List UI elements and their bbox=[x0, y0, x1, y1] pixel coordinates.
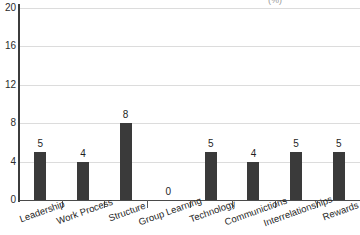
y-axis-tick-label: 4 bbox=[0, 157, 16, 167]
bar bbox=[247, 162, 259, 200]
bar-value-label: 5 bbox=[319, 139, 358, 149]
bar-value-label: 0 bbox=[149, 187, 188, 197]
chart-title-text: (%) bbox=[268, 0, 282, 5]
bar-group bbox=[106, 8, 145, 200]
y-axis-tick-label: 20 bbox=[0, 3, 16, 13]
bar-value-label: 4 bbox=[63, 149, 102, 159]
bar-value-label: 5 bbox=[277, 139, 316, 149]
y-axis-tick-label: 8 bbox=[0, 118, 16, 128]
y-axis-tick-label: 0 bbox=[0, 195, 16, 205]
bar-group bbox=[149, 8, 188, 200]
y-axis-tick-label: 12 bbox=[0, 80, 16, 90]
bar-group bbox=[21, 8, 60, 200]
x-axis-tick bbox=[147, 200, 148, 208]
bar bbox=[290, 152, 302, 200]
bar-value-label: 5 bbox=[191, 139, 230, 149]
bar-value-label: 4 bbox=[234, 149, 273, 159]
bar-group bbox=[191, 8, 230, 200]
y-axis-line bbox=[18, 4, 20, 202]
bar bbox=[120, 123, 132, 200]
bar-value-label: 5 bbox=[21, 139, 60, 149]
y-axis-tick-label: 16 bbox=[0, 41, 16, 51]
bar-value-label: 8 bbox=[106, 110, 145, 120]
bar bbox=[34, 152, 46, 200]
bar-group bbox=[63, 8, 102, 200]
chart-title-cropped: (%) bbox=[0, 0, 360, 5]
bar bbox=[205, 152, 217, 200]
bar-group bbox=[234, 8, 273, 200]
bar-group bbox=[277, 8, 316, 200]
bar bbox=[77, 162, 89, 200]
bar bbox=[333, 152, 345, 200]
bar-group bbox=[319, 8, 358, 200]
bar-chart: (%) 0481216205Leadership4Work Process8St… bbox=[0, 0, 360, 235]
